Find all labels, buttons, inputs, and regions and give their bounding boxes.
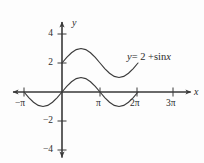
y-tick-label-4: 4 [40, 29, 53, 39]
x-tick-label-3pi: 3π [166, 99, 176, 109]
curve-label-function: sin [154, 51, 166, 62]
x-tick-label-2pi: 2π [130, 99, 140, 109]
curve-label-operator: = 2 + [132, 51, 154, 62]
x-tick-label-pi: π [96, 99, 101, 109]
y-axis-label: y [72, 18, 76, 28]
x-tick-label-neg-pi: −π [15, 99, 25, 109]
plot-canvas [0, 0, 204, 163]
curve-label-variable: x [166, 51, 171, 62]
sine-graph-figure: y x −π π 2π 3π 4 2 −2 −4 y= 2 +sinx [0, 0, 204, 163]
y-tick-label-neg-2: −2 [36, 116, 53, 126]
curve-equation-label: y= 2 +sinx [127, 52, 171, 63]
x-axis-label: x [194, 87, 198, 97]
y-tick-label-neg-4: −4 [36, 145, 53, 155]
y-tick-label-2: 2 [40, 58, 53, 68]
